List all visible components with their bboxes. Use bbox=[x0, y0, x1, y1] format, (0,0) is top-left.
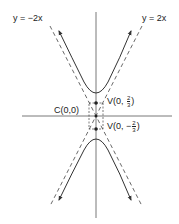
upper-vertex-point bbox=[94, 101, 98, 105]
lower-vertex-prefix: V(0, bbox=[107, 121, 126, 131]
upper-vertex-fraction: 23 bbox=[127, 95, 130, 108]
upper-branch bbox=[59, 31, 131, 93]
upper-vertex-suffix: ) bbox=[131, 96, 134, 106]
hyperbola-diagram bbox=[0, 0, 179, 224]
lower-vertex-fraction: 23 bbox=[132, 120, 135, 133]
fraction-denominator: 3 bbox=[127, 102, 130, 108]
lower-vertex-suffix: ) bbox=[137, 121, 140, 131]
lower-vertex-point bbox=[94, 127, 98, 131]
asymptote-label-neg: y = −2x bbox=[13, 14, 43, 23]
fraction-numerator: 2 bbox=[132, 120, 135, 127]
fraction-denominator: 3 bbox=[132, 127, 135, 133]
asymptote-label-pos: y = 2x bbox=[142, 14, 166, 23]
lower-branch bbox=[59, 139, 131, 200]
lower-vertex-label: V(0, −23) bbox=[107, 120, 140, 133]
upper-vertex-prefix: V(0, bbox=[107, 96, 126, 106]
fraction-numerator: 2 bbox=[127, 95, 130, 102]
center-label: C(0,0) bbox=[54, 106, 79, 115]
lower-vertex-sign: − bbox=[126, 121, 131, 131]
center-point bbox=[95, 115, 98, 118]
upper-vertex-label: V(0, 23) bbox=[107, 95, 134, 108]
